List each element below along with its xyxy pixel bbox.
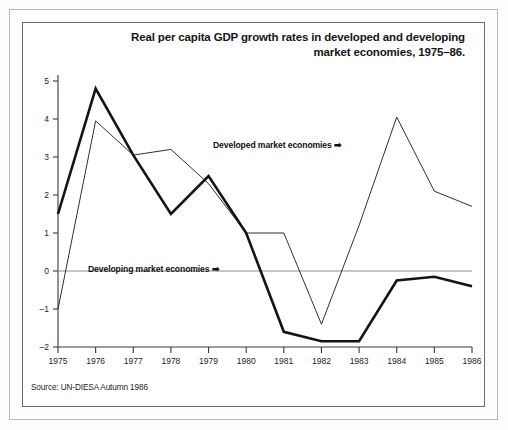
x-axis-tick-label: 1976 [86,356,105,366]
x-axis-tick-label: 1984 [387,356,406,366]
y-axis-tick-label: 0 [44,266,49,276]
source-note: Source: UN-DIESA Autumn 1986 [31,383,148,392]
y-axis-tick-label: 1 [44,228,49,238]
x-axis-tick-label: 1981 [274,356,293,366]
x-axis-tick-label: 1978 [161,356,180,366]
x-axis-tick-label: 1975 [49,356,68,366]
y-axis-tick-label: 3 [44,152,49,162]
y-axis-tick-label: 4 [44,114,49,124]
x-axis-tick-label: 1986 [463,356,482,366]
x-axis-tick-label: 1977 [124,356,143,366]
x-axis-tick-label: 1982 [312,356,331,366]
y-axis-tick-label: –1 [40,304,50,314]
x-axis-tick-label: 1979 [199,356,218,366]
chart-figure: Real per capita GDP growth rates in deve… [0,0,508,430]
y-axis-tick-label: 2 [44,190,49,200]
x-axis-tick-label: 1985 [425,356,444,366]
x-axis-tick-label: 1983 [350,356,369,366]
y-axis-tick-label: –2 [40,342,50,352]
annotation-developing-market-economies: Developing market economies ➡ [88,264,220,274]
series-line-developing-market-economies [58,89,472,342]
plot-area: –2–1012345197519761977197819791980198119… [22,22,486,408]
x-axis-tick-label: 1980 [237,356,256,366]
y-axis-tick-label: 5 [44,76,49,86]
annotation-developed-market-economies: Developed market economies ➡ [213,140,342,150]
